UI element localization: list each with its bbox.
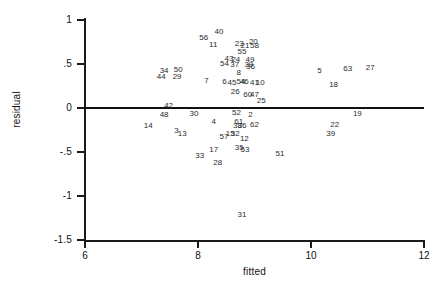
data-point-label: 63 bbox=[343, 65, 352, 73]
data-point-label: 18 bbox=[329, 81, 338, 89]
data-point-label: 25 bbox=[257, 97, 266, 105]
data-point-label: 33 bbox=[195, 152, 204, 160]
x-tick-label: 8 bbox=[183, 251, 213, 261]
data-point-label: 32 bbox=[231, 130, 240, 138]
data-point-label: 13 bbox=[178, 130, 187, 138]
y-tick-mark bbox=[77, 63, 84, 65]
data-point-label: 8 bbox=[236, 69, 240, 77]
data-point-label: 46 bbox=[240, 78, 249, 86]
data-point-label: 53 bbox=[240, 146, 249, 154]
y-tick-mark bbox=[77, 239, 84, 241]
y-tick-mark bbox=[77, 107, 84, 109]
zero-reference-line bbox=[85, 107, 424, 109]
y-tick-mark bbox=[77, 19, 84, 21]
data-point-label: 52 bbox=[232, 109, 241, 117]
y-tick-label: 1 bbox=[28, 15, 72, 25]
data-point-label: 62 bbox=[250, 121, 259, 129]
y-axis-title: residual bbox=[11, 50, 22, 170]
data-point-label: 30 bbox=[190, 110, 199, 118]
y-tick-label: -.5 bbox=[28, 147, 72, 157]
y-tick-label: .5 bbox=[28, 59, 72, 69]
data-point-label: 11 bbox=[209, 41, 217, 49]
data-point-label: 17 bbox=[209, 146, 218, 154]
data-point-label: 51 bbox=[275, 150, 284, 158]
y-tick-mark bbox=[77, 151, 84, 153]
x-tick-mark bbox=[197, 242, 199, 248]
data-point-label: 6 bbox=[222, 78, 226, 86]
data-point-label: 40 bbox=[214, 28, 223, 36]
x-tick-label: 12 bbox=[409, 251, 439, 261]
x-tick-mark bbox=[310, 242, 312, 248]
y-tick-label: -1 bbox=[28, 191, 72, 201]
data-point-label: 36 bbox=[246, 63, 255, 71]
data-point-label: 5 bbox=[317, 67, 321, 75]
data-point-label: 2 bbox=[248, 111, 252, 119]
data-point-label: 58 bbox=[250, 42, 259, 50]
data-point-label: 29 bbox=[173, 73, 182, 81]
residual-vs-fitted-scatter-plot: residual fitted 1.50-.5-1-1.5 681012 405… bbox=[0, 0, 439, 292]
data-point-label: 22 bbox=[330, 121, 339, 129]
data-point-label: 14 bbox=[144, 122, 153, 130]
data-point-label: 7 bbox=[204, 77, 208, 85]
data-point-label: 44 bbox=[157, 73, 166, 81]
data-point-label: 57 bbox=[220, 133, 229, 141]
data-point-label: 4 bbox=[212, 118, 216, 126]
data-point-label: 31 bbox=[238, 211, 247, 219]
data-point-label: 19 bbox=[353, 110, 362, 118]
data-point-label: 45 bbox=[227, 79, 236, 87]
data-point-label: 42 bbox=[164, 102, 173, 110]
data-point-label: 48 bbox=[160, 111, 169, 119]
data-point-label: 12 bbox=[240, 135, 249, 143]
data-point-label: 28 bbox=[213, 159, 222, 167]
data-point-label: 39 bbox=[326, 130, 335, 138]
x-tick-label: 6 bbox=[70, 251, 100, 261]
data-point-label: 56 bbox=[199, 34, 208, 42]
x-tick-mark bbox=[84, 242, 86, 248]
x-axis-line bbox=[84, 240, 425, 242]
data-point-label: 54 bbox=[220, 60, 229, 68]
y-tick-label: 0 bbox=[28, 103, 72, 113]
data-point-label: 10 bbox=[256, 79, 265, 87]
x-tick-mark bbox=[423, 242, 425, 248]
data-point-label: 27 bbox=[366, 64, 375, 72]
y-axis-line bbox=[84, 18, 86, 242]
y-tick-label: -1.5 bbox=[28, 235, 72, 245]
y-tick-mark bbox=[77, 195, 84, 197]
data-point-label: 26 bbox=[231, 88, 240, 96]
x-tick-label: 10 bbox=[296, 251, 326, 261]
x-axis-title: fitted bbox=[84, 266, 425, 277]
